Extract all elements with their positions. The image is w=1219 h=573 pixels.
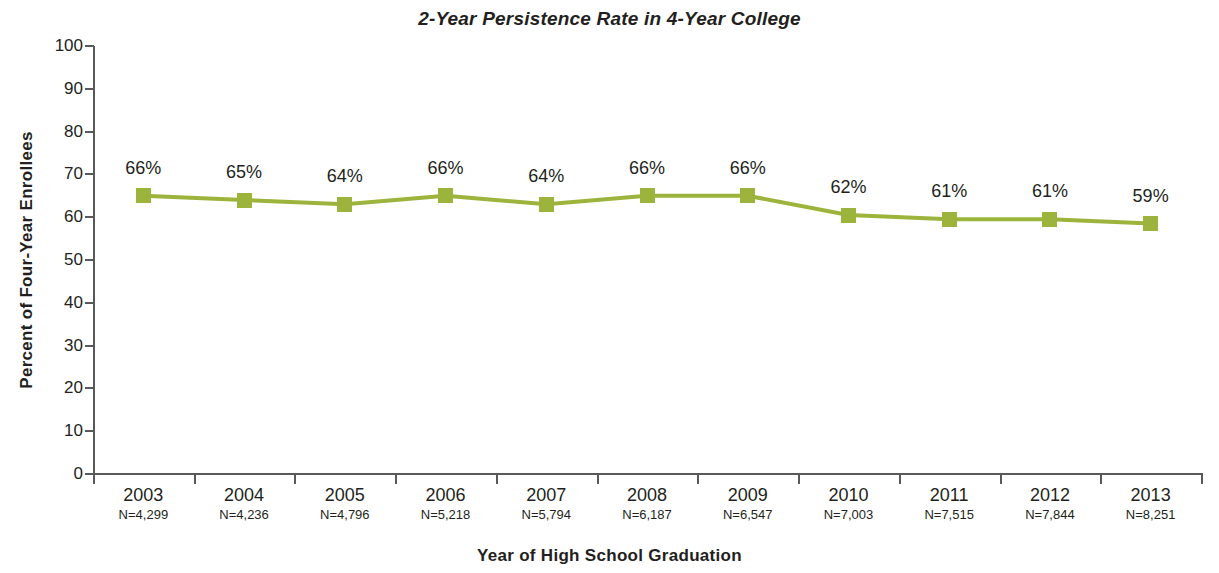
category-sample-size-label: N=6,547 <box>723 506 773 523</box>
x-axis-category: 2006N=5,218 <box>421 484 471 523</box>
category-sample-size-label: N=7,515 <box>924 506 974 523</box>
x-axis-category: 2011N=7,515 <box>924 484 974 523</box>
x-axis-category: 2008N=6,187 <box>622 484 672 523</box>
category-sample-size-label: N=5,794 <box>522 506 572 523</box>
category-year-label: 2013 <box>1126 484 1176 506</box>
data-point-marker <box>942 212 957 227</box>
data-point-label: 65% <box>226 162 262 183</box>
category-sample-size-label: N=4,299 <box>119 506 169 523</box>
x-axis-tick-mark <box>93 473 95 484</box>
x-axis-category: 2010N=7,003 <box>824 484 874 523</box>
category-year-label: 2007 <box>522 484 572 506</box>
x-axis-category: 2009N=6,547 <box>723 484 773 523</box>
data-point-marker <box>136 188 151 203</box>
data-point-label: 66% <box>125 158 161 179</box>
x-axis-category: 2004N=4,236 <box>219 484 269 523</box>
category-year-label: 2004 <box>219 484 269 506</box>
category-year-label: 2012 <box>1025 484 1075 506</box>
category-sample-size-label: N=6,187 <box>622 506 672 523</box>
y-axis-tick-label: 90 <box>37 79 83 99</box>
y-axis-tick-label: 0 <box>37 464 83 484</box>
x-axis-tick-mark <box>697 473 699 484</box>
category-sample-size-label: N=7,844 <box>1025 506 1075 523</box>
category-year-label: 2003 <box>119 484 169 506</box>
x-axis-category: 2005N=4,796 <box>320 484 370 523</box>
y-axis-tick-label: 60 <box>37 207 83 227</box>
category-sample-size-label: N=8,251 <box>1126 506 1176 523</box>
data-point-marker <box>841 208 856 223</box>
category-year-label: 2009 <box>723 484 773 506</box>
data-point-marker <box>539 197 554 212</box>
y-axis-tick-label: 100 <box>37 36 83 56</box>
chart-figure: 2-Year Persistence Rate in 4-Year Colleg… <box>0 0 1219 573</box>
data-point-label: 62% <box>830 177 866 198</box>
x-axis-tick-mark <box>395 473 397 484</box>
category-year-label: 2011 <box>924 484 974 506</box>
y-axis-tick-label: 20 <box>37 378 83 398</box>
x-axis-category: 2013N=8,251 <box>1126 484 1176 523</box>
category-year-label: 2008 <box>622 484 672 506</box>
x-axis-title: Year of High School Graduation <box>0 546 1219 566</box>
data-point-label: 66% <box>629 158 665 179</box>
data-point-label: 64% <box>528 166 564 187</box>
category-year-label: 2010 <box>824 484 874 506</box>
x-axis-tick-mark <box>1100 473 1102 484</box>
x-axis-tick-mark <box>1201 473 1203 484</box>
category-sample-size-label: N=4,236 <box>219 506 269 523</box>
x-axis-tick-mark <box>496 473 498 484</box>
data-point-marker <box>438 188 453 203</box>
series-line <box>93 46 1201 474</box>
y-axis-tick-label: 40 <box>37 293 83 313</box>
y-axis-tick-label: 10 <box>37 421 83 441</box>
data-point-marker <box>1143 216 1158 231</box>
y-axis-title: Percent of Four-Year Enrollees <box>17 100 37 420</box>
x-axis-category: 2007N=5,794 <box>522 484 572 523</box>
category-sample-size-label: N=7,003 <box>824 506 874 523</box>
y-axis-tick-label: 80 <box>37 122 83 142</box>
category-year-label: 2006 <box>421 484 471 506</box>
x-axis-category: 2003N=4,299 <box>119 484 169 523</box>
chart-title: 2-Year Persistence Rate in 4-Year Colleg… <box>0 8 1219 30</box>
x-axis-tick-mark <box>294 473 296 484</box>
x-axis-tick-mark <box>1000 473 1002 484</box>
data-point-marker <box>1042 212 1057 227</box>
category-sample-size-label: N=5,218 <box>421 506 471 523</box>
data-point-label: 61% <box>1032 181 1068 202</box>
data-point-label: 59% <box>1133 186 1169 207</box>
x-axis-category: 2012N=7,844 <box>1025 484 1075 523</box>
y-axis-tick-label: 50 <box>37 250 83 270</box>
data-point-label: 61% <box>931 181 967 202</box>
y-axis-tick-label: 30 <box>37 336 83 356</box>
data-point-marker <box>640 188 655 203</box>
plot-area: 66%65%64%66%64%66%66%62%61%61%59% <box>93 46 1201 474</box>
data-point-label: 66% <box>428 158 464 179</box>
category-sample-size-label: N=4,796 <box>320 506 370 523</box>
category-year-label: 2005 <box>320 484 370 506</box>
data-point-label: 64% <box>327 166 363 187</box>
data-point-label: 66% <box>730 158 766 179</box>
data-point-marker <box>337 197 352 212</box>
x-axis-tick-mark <box>899 473 901 484</box>
data-point-marker <box>237 193 252 208</box>
x-axis-tick-mark <box>597 473 599 484</box>
y-axis-tick-label: 70 <box>37 164 83 184</box>
x-axis-tick-mark <box>194 473 196 484</box>
x-axis-tick-mark <box>798 473 800 484</box>
data-point-marker <box>740 188 755 203</box>
